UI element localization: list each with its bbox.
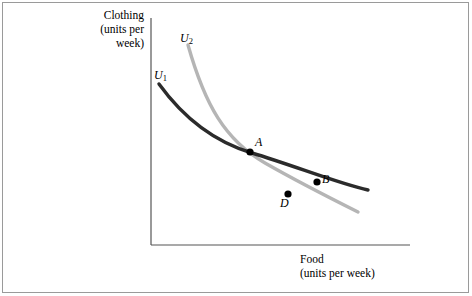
y-axis-title-main: Clothing <box>64 8 144 22</box>
curve-u1 <box>159 84 368 190</box>
x-axis-title: Food (units per week) <box>300 252 420 280</box>
curve-label-u2: U2 <box>180 31 193 46</box>
curve-label-u1: U1 <box>154 68 167 83</box>
x-axis-title-main: Food <box>300 252 420 266</box>
point-label-a: A <box>255 135 262 150</box>
point-b <box>313 178 320 185</box>
point-a <box>246 148 253 155</box>
chart-figure: Clothing (units per week) Food (units pe… <box>0 0 472 296</box>
curve-u2 <box>188 45 358 212</box>
point-label-d: D <box>280 196 289 211</box>
y-axis-title-sub1: (units per <box>64 22 144 36</box>
curve-label-u2-sub: 2 <box>189 36 193 46</box>
curve-label-u1-sub: 1 <box>163 73 167 83</box>
y-axis-title-sub2: week) <box>64 36 144 50</box>
point-label-b: B <box>322 172 329 187</box>
curve-label-u1-text: U <box>154 68 163 82</box>
x-axis-title-sub: (units per week) <box>300 266 420 280</box>
curve-label-u2-text: U <box>180 31 189 45</box>
y-axis-title: Clothing (units per week) <box>64 8 144 50</box>
